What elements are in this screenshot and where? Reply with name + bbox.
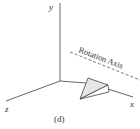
x-axis-label: x [129, 99, 134, 109]
x-axis-front [108, 89, 133, 97]
figure-caption: (d) [54, 114, 65, 124]
x-axis-back [60, 81, 86, 83]
y-axis-label: y [48, 2, 53, 12]
z-axis-label: z [4, 104, 9, 114]
diagram-canvas: y z x Rotation Axis (d) [0, 0, 140, 129]
z-axis [6, 81, 60, 101]
